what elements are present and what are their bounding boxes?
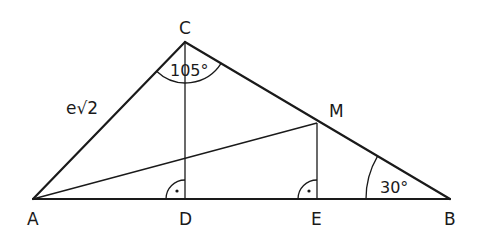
label-B: B [444,209,456,229]
side-AC [33,42,185,199]
label-E: E [311,209,322,229]
triangle-diagram: C A B D E M e√2 105° 30° [0,0,482,238]
right-angle-dot-D [175,189,178,192]
right-angle-arc-E [298,180,317,199]
right-angle-dot-E [307,189,310,192]
angle-arc-B [366,156,378,199]
right-angle-arc-D [166,180,185,199]
segment-AM [33,123,317,199]
angle-label-C: 105° [170,61,209,80]
label-C: C [179,18,191,38]
label-D: D [179,209,192,229]
side-label-AC: e√2 [66,98,98,118]
label-A: A [27,209,39,229]
label-M: M [329,101,344,121]
angle-label-B: 30° [380,178,408,197]
